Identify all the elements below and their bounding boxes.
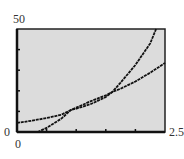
plot-background: [17, 29, 165, 132]
plot-area: [0, 0, 184, 159]
